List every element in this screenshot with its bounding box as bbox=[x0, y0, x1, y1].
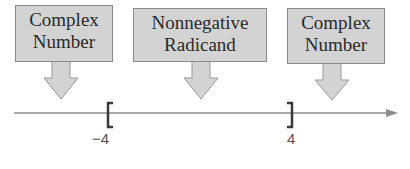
callout-complex-number-right: Complex Number bbox=[287, 8, 385, 64]
callout-line1: Complex bbox=[16, 9, 112, 31]
callout-nonnegative-radicand: Nonnegative Radicand bbox=[133, 8, 267, 62]
callout-line2: Number bbox=[16, 31, 112, 53]
callout-complex-number-left: Complex Number bbox=[15, 5, 113, 62]
callout-line2: Number bbox=[288, 34, 384, 56]
callout-line1: Complex bbox=[288, 12, 384, 34]
callout-line1: Nonnegative bbox=[134, 12, 266, 34]
callout-line2: Radicand bbox=[134, 34, 266, 56]
